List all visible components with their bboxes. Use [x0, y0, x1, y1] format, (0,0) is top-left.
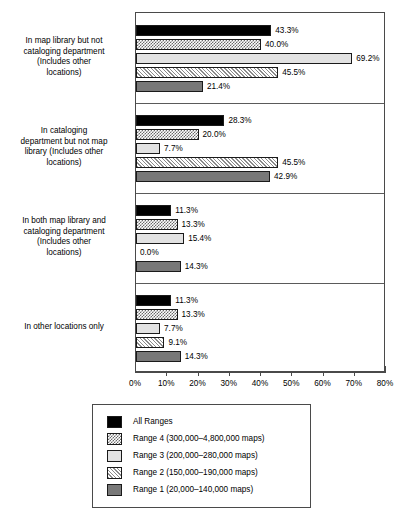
bar	[136, 323, 160, 334]
legend-item-label: Range 3 (200,000–280,000 maps)	[133, 450, 258, 462]
category-label-line: In other locations only	[0, 322, 128, 333]
x-axis-tick-label: 70%	[339, 379, 369, 388]
bar-value-label: 13.3%	[182, 309, 205, 320]
bar	[136, 337, 164, 348]
legend-item[interactable]: Range 2 (150,000–190,000 maps)	[107, 466, 258, 480]
bar-value-label: 7.7%	[164, 143, 183, 154]
legend-item[interactable]: All Ranges	[107, 415, 173, 429]
legend-swatch-icon	[107, 433, 122, 445]
bar	[136, 309, 178, 320]
legend-swatch-icon	[107, 416, 122, 428]
bar	[136, 67, 278, 78]
bar	[136, 53, 352, 64]
bar	[136, 351, 181, 362]
category-label-line: In both map library and	[0, 216, 128, 227]
category-label: In both map library andcataloging depart…	[0, 216, 128, 258]
bar-value-label: 69.2%	[356, 53, 379, 64]
group-separator	[136, 103, 384, 104]
category-label-line: locations)	[0, 158, 128, 169]
x-axis-tick	[323, 372, 324, 376]
x-axis-tick	[198, 372, 199, 376]
bar	[136, 157, 278, 168]
category-label-line: cataloging department	[0, 47, 128, 58]
legend-item[interactable]: Range 4 (300,000–4,800,000 maps)	[107, 432, 265, 446]
x-axis-tick-label: 40%	[245, 379, 275, 388]
bar	[136, 143, 160, 154]
group-separator	[136, 283, 384, 284]
legend-item-label: Range 4 (300,000–4,800,000 maps)	[133, 433, 265, 445]
bar	[136, 129, 199, 140]
legend-item[interactable]: Range 3 (200,000–280,000 maps)	[107, 449, 258, 463]
bar-value-label: 45.5%	[282, 157, 305, 168]
category-label-line: cataloging department	[0, 227, 128, 238]
bar-value-label: 28.3%	[228, 115, 251, 126]
category-label-line: (Includes other	[0, 57, 128, 68]
bar-value-label: 21.4%	[207, 81, 230, 92]
category-label-line: locations)	[0, 68, 128, 79]
plot-area: 43.3%40.0%69.2%45.5%21.4%28.3%20.0%7.7%4…	[135, 12, 385, 372]
bar-value-label: 11.3%	[175, 295, 198, 306]
bar-chart: In map library but notcataloging departm…	[0, 0, 413, 395]
x-axis-tick	[291, 372, 292, 376]
bar	[136, 219, 178, 230]
group-separator	[136, 193, 384, 194]
x-axis-tick	[385, 366, 386, 373]
x-axis-tick	[166, 372, 167, 376]
legend-item-label: Range 2 (150,000–190,000 maps)	[133, 467, 258, 479]
bar-value-label: 11.3%	[175, 205, 198, 216]
category-label-column: In map library but notcataloging departm…	[0, 12, 133, 372]
bar-value-label: 14.3%	[185, 351, 208, 362]
legend-item[interactable]: Range 1 (20,000–140,000 maps)	[107, 483, 253, 497]
bar-value-label: 42.9%	[274, 171, 297, 182]
x-axis-tick-label: 80%	[370, 379, 400, 388]
x-axis-tick	[229, 372, 230, 376]
category-label-line: In cataloging	[0, 126, 128, 137]
bar-value-label: 0.0%	[140, 247, 159, 258]
category-label-line: department but not map	[0, 137, 128, 148]
bar-value-label: 13.3%	[182, 219, 205, 230]
bar	[136, 171, 270, 182]
bar	[136, 261, 181, 272]
bar-value-label: 43.3%	[275, 25, 298, 36]
bar-value-label: 20.0%	[203, 129, 226, 140]
legend-swatch-icon	[107, 467, 122, 479]
bar	[136, 39, 261, 50]
category-label-line: library (Includes other	[0, 147, 128, 158]
x-axis-tick	[260, 372, 261, 376]
category-label-line: In map library but not	[0, 36, 128, 47]
bar	[136, 115, 224, 126]
x-axis-tick-label: 0%	[120, 379, 150, 388]
bar-value-label: 15.4%	[188, 233, 211, 244]
x-axis-tick-label: 20%	[183, 379, 213, 388]
bar-value-label: 40.0%	[265, 39, 288, 50]
x-axis-tick	[354, 372, 355, 376]
x-axis-tick-label: 30%	[214, 379, 244, 388]
category-label-line: locations)	[0, 248, 128, 259]
x-axis-tick-label: 50%	[276, 379, 306, 388]
chart-legend: All RangesRange 4 (300,000–4,800,000 map…	[92, 404, 311, 508]
bar-value-label: 14.3%	[185, 261, 208, 272]
bar-value-label: 7.7%	[164, 323, 183, 334]
legend-item-label: All Ranges	[133, 416, 173, 428]
bar	[136, 25, 271, 36]
x-axis-tick-label: 60%	[308, 379, 338, 388]
x-axis-tick	[135, 366, 136, 373]
category-label-line: (Includes other	[0, 237, 128, 248]
bar	[136, 81, 203, 92]
category-label: In catalogingdepartment but not maplibra…	[0, 126, 128, 168]
bar	[136, 205, 171, 216]
x-axis-tick-label: 10%	[151, 379, 181, 388]
bar-value-label: 45.5%	[282, 67, 305, 78]
legend-swatch-icon	[107, 484, 122, 496]
category-label: In map library but notcataloging departm…	[0, 36, 128, 78]
category-label: In other locations only	[0, 322, 128, 333]
bar	[136, 295, 171, 306]
bar-value-label: 9.1%	[168, 337, 187, 348]
bar	[136, 233, 184, 244]
legend-swatch-icon	[107, 450, 122, 462]
legend-item-label: Range 1 (20,000–140,000 maps)	[133, 484, 253, 496]
